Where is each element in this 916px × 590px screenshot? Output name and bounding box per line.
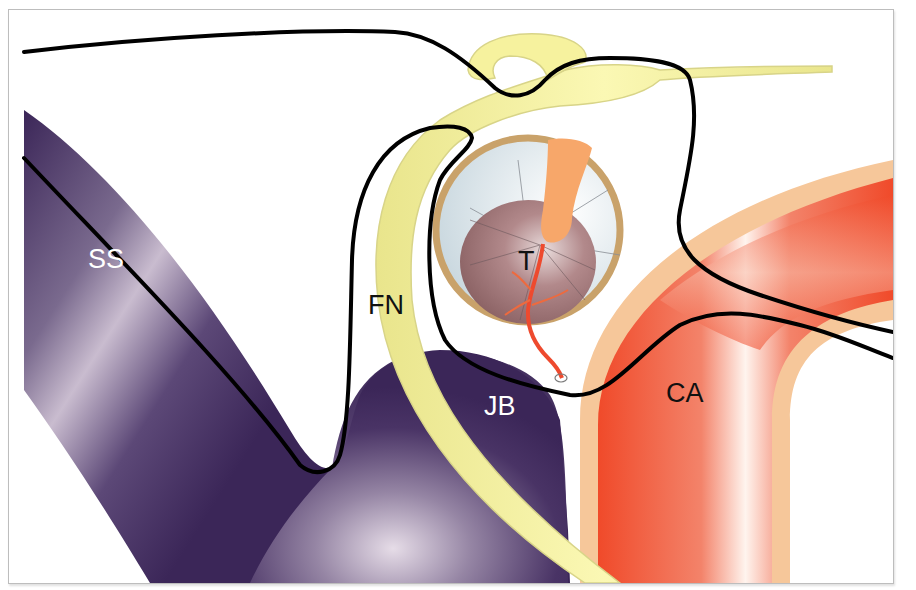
label-t: T: [518, 246, 535, 276]
label-fn: FN: [368, 290, 404, 320]
label-ca: CA: [666, 378, 704, 408]
label-jb: JB: [484, 391, 516, 421]
anatomical-diagram: SS FN T JB CA: [0, 0, 916, 590]
label-ss: SS: [88, 244, 124, 274]
